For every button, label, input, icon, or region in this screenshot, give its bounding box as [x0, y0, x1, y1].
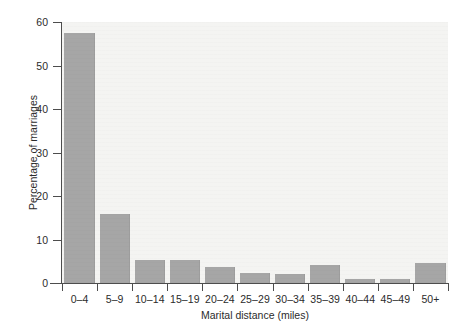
x-axis-tick-label: 30–34: [273, 294, 308, 305]
x-axis-tick: [413, 283, 414, 291]
bar: [415, 263, 445, 283]
x-axis-tick: [132, 283, 133, 291]
bar: [135, 260, 165, 283]
x-axis-tick-label: 40–44: [343, 294, 378, 305]
bar-slot: [343, 22, 378, 283]
y-axis-tick: [53, 22, 61, 23]
plot-area: [62, 22, 448, 283]
y-axis-tick: [53, 240, 61, 241]
chart-figure: 0102030405060 0–45–910–1415–1920–2425–29…: [0, 0, 467, 331]
x-axis-tick-label: 5–9: [97, 294, 132, 305]
x-axis-tick: [167, 283, 168, 291]
bar-slot: [273, 22, 308, 283]
bar: [100, 214, 130, 283]
x-axis-tick-label: 35–39: [308, 294, 343, 305]
bar: [205, 267, 235, 283]
y-axis-title: Percentage of marriages: [22, 22, 44, 283]
x-axis-tick: [202, 283, 203, 291]
x-axis-tick-label: 25–29: [237, 294, 272, 305]
bar-slot: [132, 22, 167, 283]
bar: [170, 260, 200, 283]
x-axis-tick: [378, 283, 379, 291]
bar: [310, 265, 340, 283]
x-axis-tick-label: 45–49: [378, 294, 413, 305]
x-axis-tick-labels: 0–45–910–1415–1920–2425–2930–3435–3940–4…: [62, 294, 448, 305]
x-axis-tick: [97, 283, 98, 291]
x-axis-line: [50, 283, 448, 284]
x-axis-tick-label: 0–4: [62, 294, 97, 305]
x-axis-tick: [308, 283, 309, 291]
x-axis-tick: [448, 283, 449, 291]
bar: [240, 273, 270, 283]
y-axis-tick: [53, 153, 61, 154]
y-axis-tick: [53, 196, 61, 197]
x-axis-tick-label: 50+: [413, 294, 448, 305]
x-axis-tick: [237, 283, 238, 291]
bar: [64, 33, 94, 283]
bar-slot: [202, 22, 237, 283]
bar-slot: [308, 22, 343, 283]
bar-slot: [413, 22, 448, 283]
y-axis-tick: [53, 283, 61, 284]
y-axis-line: [61, 22, 62, 284]
x-axis-title: Marital distance (miles): [62, 310, 448, 321]
bar-slot: [237, 22, 272, 283]
bar-slot: [378, 22, 413, 283]
x-axis-tick: [343, 283, 344, 291]
bar-series: [62, 22, 448, 283]
x-axis-tick-label: 10–14: [132, 294, 167, 305]
y-axis-tick: [53, 109, 61, 110]
bar-slot: [62, 22, 97, 283]
x-axis-tick: [62, 283, 63, 291]
x-axis-tick-label: 20–24: [202, 294, 237, 305]
bar-slot: [167, 22, 202, 283]
x-axis-tick: [273, 283, 274, 291]
bar-slot: [97, 22, 132, 283]
y-axis-tick: [53, 66, 61, 67]
bar: [275, 274, 305, 283]
x-axis-tick-label: 15–19: [167, 294, 202, 305]
